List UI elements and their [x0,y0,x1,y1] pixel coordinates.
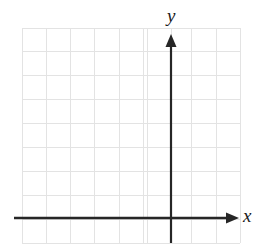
plot-canvas [0,0,262,252]
figure-background [0,0,262,252]
y-axis-label: y [167,6,175,25]
coordinate-plane-figure: y x [0,0,262,252]
x-axis-label: x [243,206,251,225]
